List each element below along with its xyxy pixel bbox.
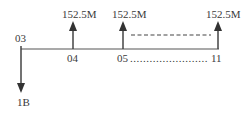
inflow-label-04: 152.5M [62,9,97,20]
inflow-label-05: 152.5M [112,9,147,20]
arrowhead-up-icon [119,21,127,31]
period-label-05: 05 [117,53,128,64]
period-label-04: 04 [67,53,78,64]
period-label-11: 11 [211,53,222,64]
inflow-label-11: 152.5M [206,9,241,20]
cash-flow-diagram: 03 1B 152.5M 04 152.5M 05 ..............… [0,0,251,115]
arrowhead-up-icon [214,21,222,31]
period-label-03: 03 [15,33,26,44]
outflow-label-1b: 1B [17,97,30,108]
arrowhead-down-icon [17,83,25,93]
range-dots: ........................ [130,53,208,64]
arrowhead-up-icon [69,21,77,31]
